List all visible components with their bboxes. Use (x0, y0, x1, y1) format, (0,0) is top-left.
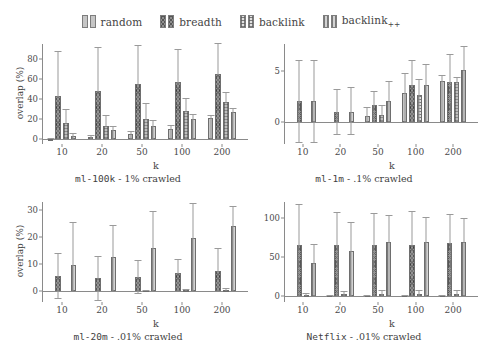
bar-breadth-k20 (95, 202, 100, 302)
bar-backlink-k10 (63, 44, 68, 144)
legend-swatch-box (240, 15, 246, 28)
error-bar-cap-top (385, 215, 392, 216)
bar-group-k-20 (82, 44, 122, 144)
error-bar-line (225, 92, 226, 139)
error-bar-line (73, 222, 74, 291)
bar-backlink-k10 (304, 202, 309, 302)
bar-backlink-k100 (183, 202, 188, 302)
bar-group-k-200 (202, 202, 242, 302)
x-tick-label-20: 20 (335, 147, 346, 157)
bar-group-k-10 (42, 202, 82, 302)
error-bar-line (412, 211, 413, 295)
bar-backlinkpp-k50 (151, 202, 156, 302)
legend-swatch-breadth (160, 15, 174, 28)
bar-backlinkpp-k50 (386, 202, 391, 302)
error-bar-line (463, 218, 464, 295)
legend-entry-random: random (82, 15, 143, 28)
error-bar-cap-top (175, 49, 182, 50)
legend-label-random: random (101, 16, 143, 28)
bar-backlinkpp-k50 (386, 44, 391, 144)
bar-group-k-50 (359, 44, 397, 144)
x-tick-label-50: 50 (372, 305, 383, 315)
error-bar-line (193, 203, 194, 291)
error-bar-line (113, 225, 114, 291)
error-bar-line (336, 89, 337, 134)
bar-group-k-50 (122, 44, 162, 144)
error-bar-line (153, 211, 154, 291)
error-bar-line (351, 222, 352, 296)
legend-swatch-box (323, 15, 329, 28)
legend-entry-backlink: backlink (240, 15, 305, 28)
error-bar-line (170, 125, 171, 140)
x-tick-label-200: 200 (445, 305, 462, 315)
error-bar-line (412, 60, 413, 121)
x-tick-label-10: 10 (297, 147, 308, 157)
chart-caption-ml-1m: ml-1m - .1% crawled (250, 173, 478, 184)
error-bar-cap-top (222, 288, 229, 289)
error-bar-cap-top (47, 138, 54, 139)
x-axis-label-ml-100k: k (8, 160, 276, 171)
error-bar-line (185, 98, 186, 139)
error-bar-line (374, 91, 375, 122)
x-tick-label-100: 100 (173, 305, 190, 315)
error-bar-cap-bottom (333, 134, 340, 135)
bar-backlink-k20 (103, 202, 108, 302)
error-bar-cap-top (333, 212, 340, 213)
error-bar-line (336, 212, 337, 296)
legend-swatch-box (160, 15, 166, 28)
error-bar-cap-top (423, 217, 430, 218)
error-bar-cap-top (95, 256, 102, 257)
error-bar-cap-bottom (348, 134, 355, 135)
error-bar-cap-top (439, 75, 446, 76)
x-tick-label-100: 100 (173, 147, 190, 157)
bar-group-k-10 (284, 202, 322, 302)
error-bar-line (299, 204, 300, 296)
error-bar-cap-top (135, 45, 142, 46)
error-bar-line (233, 206, 234, 291)
error-bar-line (218, 248, 219, 291)
error-bar-cap-top (423, 64, 430, 65)
caption-crawl-rate: - .1% crawled (344, 173, 413, 184)
error-bar-line (456, 77, 457, 122)
x-tick-label-10: 10 (56, 305, 67, 315)
error-bar-cap-top (340, 291, 347, 292)
x-axis-label-netflix: k (250, 318, 482, 329)
bar-breadth-k10 (55, 202, 60, 302)
error-bar-line (426, 217, 427, 296)
error-bar-cap-top (460, 218, 467, 219)
x-tick-label-200: 200 (445, 147, 462, 157)
legend-label-backlink: backlink (259, 16, 305, 28)
error-bar-cap-top (182, 98, 189, 99)
error-bar-cap-top (371, 91, 378, 92)
bar-breadth-k20 (334, 202, 339, 302)
error-bar-line (419, 79, 420, 122)
error-bar-cap-top (230, 108, 237, 109)
x-tick-label-100: 100 (407, 305, 424, 315)
error-bar-cap-top (446, 54, 453, 55)
error-bar-cap-top (296, 60, 303, 61)
bar-group-k-100 (162, 202, 202, 302)
error-bar-line (313, 244, 314, 296)
error-bar-line (426, 64, 427, 121)
bar-breadth-k10 (55, 44, 60, 144)
error-bar-line (130, 131, 131, 140)
caption-crawl-rate: - .01% crawled (347, 331, 422, 342)
bar-random-k20 (327, 44, 332, 144)
bar-random-k100 (168, 44, 173, 144)
error-bar-cap-top (127, 131, 134, 132)
bar-group-k-10 (42, 44, 82, 144)
bar-group-k-20 (322, 202, 360, 302)
error-bar-line (145, 103, 146, 139)
caption-crawl-rate: - .01% crawled (108, 331, 183, 342)
bar-group-k-100 (162, 44, 202, 144)
legend-swatch-box (248, 15, 254, 28)
error-bar-cap-top (70, 222, 77, 223)
bar-breadth-k20 (95, 44, 100, 144)
plot-area-ml-100k: 020406080 (42, 44, 242, 144)
bar-backlinkpp-k20 (349, 44, 354, 144)
error-bar-line (351, 87, 352, 134)
bar-group-k-200 (202, 44, 242, 144)
error-bar-line (388, 215, 389, 296)
x-tick-label-20: 20 (96, 305, 107, 315)
bar-backlinkpp-k10 (311, 44, 316, 144)
